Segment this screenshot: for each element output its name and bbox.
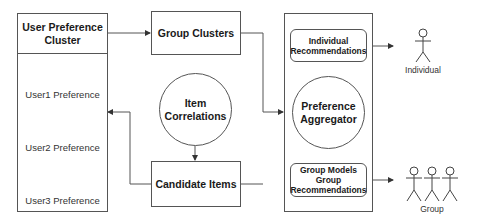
preference-aggregator-circle: Preference Aggregator <box>292 76 365 149</box>
user3-label: User3 Preference <box>17 195 108 206</box>
cluster-title: User Preference Cluster <box>18 14 107 54</box>
user1-label: User1 Preference <box>17 89 108 100</box>
group-clusters-box: Group Clusters <box>151 11 241 55</box>
group-actors-icon <box>406 167 458 201</box>
individual-label: Individual <box>403 65 443 75</box>
user-preference-cluster: User Preference Cluster <box>17 13 108 212</box>
individual-actor-icon <box>415 29 431 62</box>
individual-recommendations-box: Individual Recommendations <box>290 29 367 62</box>
user2-label: User2 Preference <box>17 142 108 153</box>
candidate-items-box: Candidate Items <box>151 161 241 207</box>
group-label: Group <box>412 204 452 214</box>
group-recommendations-box: Group Models Group Recommendations <box>290 163 367 197</box>
item-correlations-circle: Item Correlations <box>159 73 232 146</box>
